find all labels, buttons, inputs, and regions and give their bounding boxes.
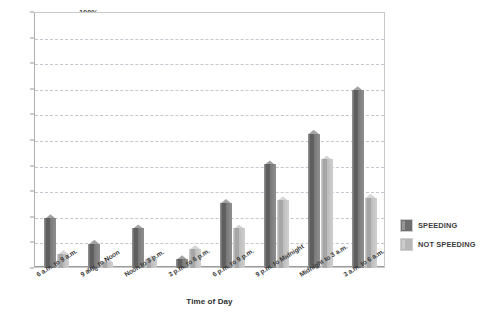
bar-group [253,12,297,268]
bar-speeding [352,86,364,268]
bar-speeding [264,160,276,268]
bar-group [297,12,341,268]
bar-group [34,12,78,268]
legend-swatch-icon [400,238,413,251]
bars-layer [34,12,385,268]
legend-label: NOT SPEEDING [418,240,476,249]
bar-speeding [308,130,320,268]
legend-item-not-speeding: NOT SPEEDING [400,236,476,253]
x-axis-title: Time of Day [34,297,385,306]
legend: SPEEDING NOT SPEEDING [400,217,476,255]
bar-body [220,203,232,268]
bar-body [308,134,320,268]
bar-group [166,12,210,268]
bar-group [341,12,385,268]
bar-group [122,12,166,268]
bar-chart: 0% 10% 20% 30% 40% 50% 60% 70% 80% 90% 1… [0,0,489,320]
bar-body [264,164,276,268]
legend-swatch-icon [400,219,413,232]
legend-label: SPEEDING [418,221,457,230]
bar-group [78,12,122,268]
bar-body [352,90,364,268]
bar-speeding [220,199,232,268]
bar-group [210,12,254,268]
legend-item-speeding: SPEEDING [400,217,476,234]
